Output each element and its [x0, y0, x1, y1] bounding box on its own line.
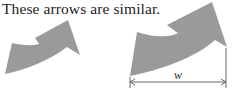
width-label: w	[174, 68, 182, 83]
small-arrow-icon	[5, 20, 80, 74]
large-arrow-icon	[130, 2, 227, 76]
arrows-diagram	[0, 0, 233, 88]
